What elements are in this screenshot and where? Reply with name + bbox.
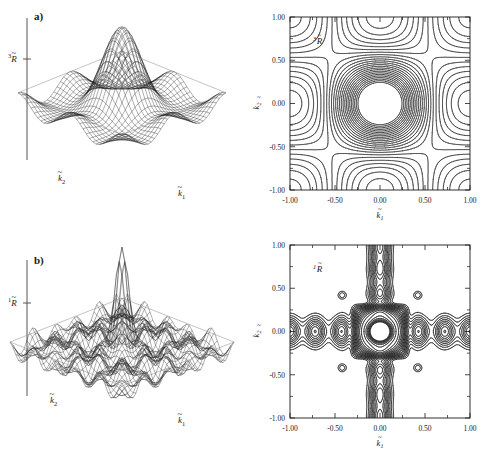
panel-b-contour-xlabel-sub: 1 [380, 443, 383, 449]
panel-b-vaxis-tilde: ~ [12, 294, 17, 302]
x-tick-label: 0.50 [418, 424, 431, 433]
panel-b-yaxis-subscript: 2 [54, 400, 57, 407]
panel-a-xaxis-subscript: 1 [182, 193, 185, 200]
panel-b-contour: -1.00-0.500.000.501.00-1.00-0.500.000.50… [245, 228, 484, 455]
y-tick-label: 0.00 [272, 99, 285, 108]
panel-b-y-axis-label: ~k2 [50, 395, 57, 407]
panel-b-x-axis-label: ~k1 [178, 415, 185, 427]
wireframe-path [10, 247, 234, 398]
panel-a-mesh [18, 27, 226, 145]
x-tick-label: 0.00 [373, 196, 386, 205]
y-tick-label: -1.00 [269, 414, 285, 423]
panel-a-surface: a) 3~R ~k2 ~k1 [0, 0, 245, 227]
panel-a-contour-ylabel-sub: 2 [256, 103, 262, 106]
y-tick-label: 1.00 [272, 241, 285, 250]
x-tick-label: -0.50 [327, 196, 343, 205]
panel-b-xaxis-tilde: ~ [178, 411, 183, 419]
tilde-accent: ~ [317, 31, 321, 39]
x-tick-label: -0.50 [327, 424, 343, 433]
panel-b-surface: b) 1~R ~k2 ~k1 [0, 228, 245, 455]
x-tick-label: 1.00 [463, 196, 476, 205]
panel-b-mesh [10, 247, 234, 398]
panel-b-contour-svg: -1.00-0.500.000.501.00-1.00-0.500.000.50… [245, 228, 484, 455]
x-tick-label: -1.00 [282, 196, 298, 205]
wireframe-path [18, 27, 226, 145]
tilde-accent: ~ [257, 93, 261, 101]
panel-a-vaxis-tilde: ~ [12, 50, 17, 58]
panel-a-contour-ylabel: k2 [251, 103, 262, 110]
y-tick-label: -1.00 [269, 186, 285, 195]
tilde-accent: ~ [378, 433, 382, 441]
panel-a-contour-xlabel-sub: 1 [380, 215, 383, 221]
x-tick-label: 0.50 [418, 196, 431, 205]
panel-a-surface-svg [0, 0, 245, 227]
panel-a-ticks: -1.00-0.500.000.501.00-1.00-0.500.000.50… [269, 13, 476, 205]
figure-root: a) 3~R ~k2 ~k1 -1.00-0.500.000.501.00-1.… [0, 0, 484, 455]
panel-a-yaxis-subscript: 2 [62, 178, 65, 185]
panel-a-yaxis-tilde: ~ [58, 169, 63, 177]
panel-b-contour-ylabel-sub: 2 [256, 331, 262, 334]
y-tick-label: 0.50 [272, 284, 285, 293]
tilde-accent: ~ [318, 259, 322, 267]
y-tick-label: 0.00 [272, 327, 285, 336]
x-tick-label: 0.00 [373, 424, 386, 433]
panel-b-vertical-axis-label: 1~R [8, 296, 17, 308]
x-tick-label: -1.00 [282, 424, 298, 433]
panel-a-contour: -1.00-0.500.000.501.00-1.00-0.500.000.50… [245, 0, 484, 227]
panel-a-label: a) [34, 10, 43, 22]
panel-a-y-axis-label: ~k2 [58, 173, 65, 185]
panel-b-contour-tag-sup: 1 [313, 263, 316, 270]
y-tick-label: -0.50 [269, 371, 285, 380]
tilde-accent: ~ [378, 205, 382, 213]
panel-a-xaxis-tilde: ~ [178, 184, 183, 192]
panel-b-contour-ylabel: k2 [251, 331, 262, 338]
y-tick-label: -0.50 [269, 143, 285, 152]
x-tick-label: 1.00 [463, 424, 476, 433]
panel-b-label: b) [34, 254, 44, 266]
tilde-accent: ~ [257, 321, 261, 329]
panel-a-vertical-axis-label: 3~R [8, 52, 17, 64]
panel-b-xaxis-subscript: 1 [182, 420, 185, 427]
panel-a-contour-svg: -1.00-0.500.000.501.00-1.00-0.500.000.50… [245, 0, 484, 227]
panel-a-x-axis-label: ~k1 [178, 188, 185, 200]
y-tick-label: 0.50 [272, 56, 285, 65]
panel-b-yaxis-tilde: ~ [50, 391, 55, 399]
y-tick-label: 1.00 [272, 13, 285, 22]
